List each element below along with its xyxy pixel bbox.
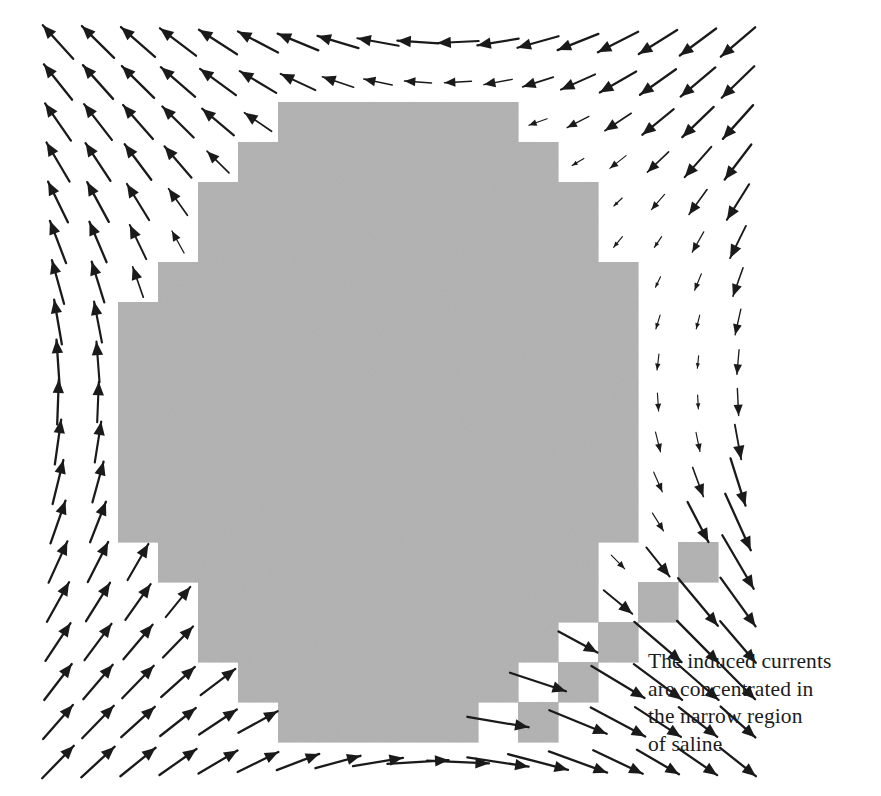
conductor-cell: [438, 422, 479, 463]
conductor-cell: [238, 262, 279, 303]
conductor-cell: [518, 142, 559, 183]
conductor-cell: [118, 342, 159, 383]
conductor-cell: [158, 342, 199, 383]
field-arrow: [87, 182, 109, 222]
conductor-cell: [198, 622, 239, 663]
conductor-cell: [518, 502, 559, 543]
conductor-cell: [158, 502, 199, 543]
conductor-cell: [438, 622, 479, 663]
conductor-cell: [558, 582, 599, 623]
field-arrow: [655, 315, 660, 329]
conductor-cell: [598, 342, 639, 383]
field-arrow: [160, 28, 196, 55]
field-arrow: [122, 66, 154, 98]
conductor-cell: [518, 702, 559, 743]
field-arrow: [160, 708, 196, 736]
field-arrow: [322, 76, 353, 88]
field-arrow: [696, 395, 701, 409]
conductor-cell: [478, 582, 519, 623]
conductor-cell: [278, 382, 319, 423]
conductor-cell: [158, 462, 199, 503]
conductor-cell: [318, 542, 359, 583]
field-arrow: [50, 260, 64, 304]
field-arrow: [693, 467, 704, 496]
field-arrow: [678, 578, 718, 626]
field-arrow: [695, 432, 701, 451]
field-arrow: [240, 71, 276, 93]
conductor-cell: [318, 382, 359, 423]
conductor-cell: [438, 462, 479, 503]
conductor-cell: [358, 302, 399, 343]
conductor-cell: [398, 262, 439, 303]
conductor-cell: [438, 542, 479, 583]
conductor-cell: [318, 502, 359, 543]
field-arrow: [86, 143, 111, 181]
conductor-cell: [518, 382, 559, 423]
field-arrow: [46, 143, 69, 182]
conductor-cell: [398, 582, 439, 623]
conductor-cell: [278, 502, 319, 543]
field-arrow: [695, 274, 702, 290]
conductor-cell: [318, 222, 359, 263]
conductor-cell: [118, 502, 159, 543]
conductor-cell: [278, 342, 319, 383]
conductor-cell: [358, 262, 399, 303]
field-arrow: [161, 667, 195, 697]
field-arrow: [49, 221, 66, 263]
field-arrow: [598, 32, 638, 53]
field-arrow: [727, 184, 749, 219]
conductor-cell: [318, 622, 359, 663]
conductor-cell: [358, 502, 399, 543]
field-arrow: [732, 268, 743, 296]
conductor-cell: [438, 102, 479, 143]
conductor-cell: [518, 262, 559, 303]
conductor-cell: [478, 342, 519, 383]
field-arrow: [84, 104, 112, 140]
field-arrow: [88, 542, 108, 582]
conductor-cell: [318, 182, 359, 223]
field-arrow: [51, 501, 67, 544]
field-arrow: [722, 66, 754, 98]
conductor-cell: [198, 462, 239, 503]
conductor-cell: [358, 702, 399, 743]
figure-canvas: The induced currents are concentrated in…: [0, 0, 881, 796]
conductor-cell: [398, 342, 439, 383]
field-arrow: [611, 555, 624, 569]
field-arrow: [655, 277, 660, 287]
field-arrow: [604, 590, 633, 614]
field-arrow: [445, 78, 472, 87]
field-arrow: [696, 356, 700, 368]
conductor-cell: [558, 542, 599, 583]
conductor-cell: [358, 382, 399, 423]
conductor-cell: [278, 622, 319, 663]
conductor-cell: [318, 462, 359, 503]
conductor-cell: [318, 342, 359, 383]
field-arrow: [90, 262, 104, 303]
conductor-cell: [438, 382, 479, 423]
field-arrow: [558, 34, 599, 50]
conductor-cell: [318, 702, 359, 743]
field-arrow: [652, 513, 663, 531]
conductor-cell: [438, 582, 479, 623]
conductor-cell: [318, 662, 359, 703]
field-arrow: [201, 669, 236, 695]
field-arrow: [647, 152, 668, 172]
field-arrow: [93, 382, 104, 423]
field-arrow: [162, 107, 193, 138]
conductor-cell: [478, 502, 519, 543]
conductor-cell: [238, 542, 279, 583]
field-arrow: [278, 34, 319, 51]
field-arrow: [166, 587, 191, 617]
field-arrow: [82, 706, 114, 738]
field-arrow: [404, 77, 431, 86]
field-arrow: [654, 237, 661, 248]
conductor-cell: [358, 142, 399, 183]
conductor-cell: [398, 102, 439, 143]
field-arrow: [83, 65, 113, 99]
conductor-cell: [518, 182, 559, 223]
field-arrow: [695, 315, 700, 329]
field-arrow: [132, 267, 143, 297]
conductor-cell: [398, 662, 439, 703]
conductor-cell: [358, 222, 399, 263]
conductor-cell: [358, 422, 399, 463]
